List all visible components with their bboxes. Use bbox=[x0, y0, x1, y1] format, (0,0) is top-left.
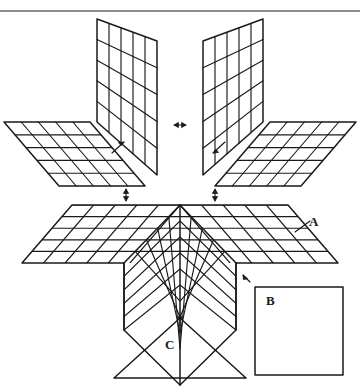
figure-canvas: .s{fill:none;stroke:#1a1a1a;stroke-width… bbox=[0, 0, 360, 392]
panel-corner-face-top-left bbox=[32, 205, 180, 263]
panel-vertical-panel-left bbox=[97, 19, 157, 175]
arrow-square-pointer bbox=[243, 275, 250, 282]
label-c: C bbox=[165, 338, 174, 351]
arrow-upper-left-rotate bbox=[112, 142, 124, 153]
arrow-mid-right-vertical bbox=[212, 189, 217, 201]
panel-horizontal-panel-left bbox=[4, 122, 145, 186]
panel-horizontal-panel-right bbox=[215, 122, 356, 186]
panel-corner-face-front-right bbox=[180, 217, 236, 349]
panel-vertical-panel-right bbox=[203, 19, 263, 175]
arrow-mid-left-vertical bbox=[123, 189, 128, 201]
label-a: A bbox=[309, 215, 318, 228]
figure-linework: .s{fill:none;stroke:#1a1a1a;stroke-width… bbox=[0, 0, 360, 392]
panel-corner-face-top-right bbox=[180, 205, 328, 263]
arrow-center-horizontal bbox=[174, 122, 186, 127]
label-b: B bbox=[266, 294, 275, 307]
